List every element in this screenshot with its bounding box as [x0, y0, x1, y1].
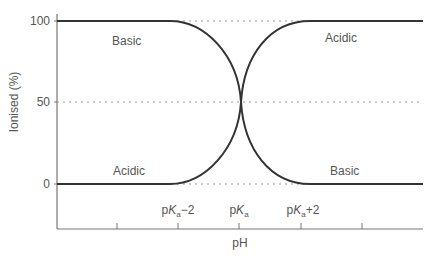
- p-text: p: [287, 203, 294, 217]
- y-tick-label-100: 100: [20, 15, 50, 27]
- k-text: K: [236, 203, 244, 217]
- y-tick-label-0: 0: [20, 178, 50, 190]
- k-text: K: [168, 203, 176, 217]
- p-text: p: [229, 203, 236, 217]
- x-axis-title: pH: [232, 237, 247, 249]
- x-tick-label-pka-plus-2: pKa+2: [287, 204, 320, 219]
- x-tick-label-pka: pKa: [229, 204, 248, 219]
- x-tick-label-pka-minus-2: pKa−2: [162, 204, 195, 219]
- offset-text: +2: [306, 203, 320, 217]
- annotation-basic-lower: Basic: [330, 165, 359, 177]
- annotation-acidic-lower: Acidic: [113, 165, 145, 177]
- y-axis-title: Ionised (%): [7, 72, 21, 133]
- annotation-acidic-upper: Acidic: [325, 32, 357, 44]
- offset-text: −2: [181, 203, 195, 217]
- k-text: K: [293, 203, 301, 217]
- p-text: p: [162, 203, 169, 217]
- annotation-basic-upper: Basic: [112, 35, 141, 47]
- a-subscript: a: [244, 210, 248, 219]
- y-tick-label-50: 50: [20, 96, 50, 108]
- chart-canvas: [0, 0, 437, 258]
